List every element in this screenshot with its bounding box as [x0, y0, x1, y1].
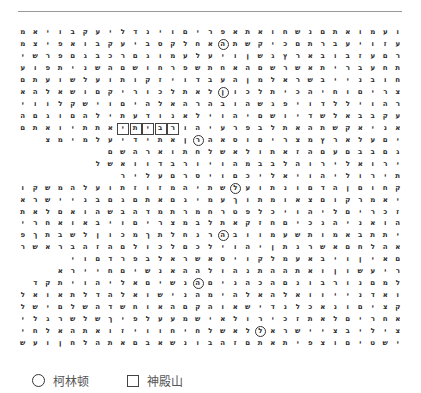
grid-letter: ו: [392, 290, 405, 301]
grid-letter: ר: [129, 87, 142, 98]
grid-letter: א: [54, 87, 67, 98]
grid-letter: ם: [254, 63, 267, 74]
grid-letter: פ: [129, 314, 142, 325]
grid-letter: ם: [342, 338, 355, 349]
grid-letter: נ: [179, 278, 192, 289]
grid-row: חובנייבשראלמןהעבדויזקותועלשועתם: [16, 75, 404, 87]
grid-letter: צ: [392, 326, 405, 337]
grid-letter: א: [254, 27, 267, 38]
grid-letter: ע: [379, 27, 392, 38]
grid-letter: ו: [179, 123, 192, 134]
grid-letter: ת: [104, 338, 117, 349]
grid-letter: ם: [379, 51, 392, 62]
grid-letter: ו: [229, 99, 242, 110]
grid-letter: א: [54, 326, 67, 337]
grid-letter: ב: [367, 147, 380, 158]
grid-letter: ה: [204, 302, 217, 313]
grid-letter: א: [317, 302, 330, 313]
grid-letter: ה: [104, 242, 117, 253]
grid-letter: ל: [229, 314, 242, 325]
grid-letter: ו: [342, 254, 355, 265]
grid-letter: א: [17, 87, 30, 98]
grid-letter: ר: [292, 51, 305, 62]
grid-letter: ה: [92, 278, 105, 289]
grid-letter: א: [392, 242, 405, 253]
grid-letter: ל: [192, 111, 205, 122]
grid-letter: ם: [167, 195, 180, 206]
grid-letter: י: [392, 195, 405, 206]
grid-letter: ה: [104, 63, 117, 74]
grid-letter: י: [92, 266, 105, 277]
grid-letter: מ: [304, 135, 317, 146]
grid-letter: ל: [179, 39, 192, 50]
grid-letter: ע: [92, 75, 105, 86]
grid-letter: י: [292, 111, 305, 122]
grid-letter: ת: [304, 39, 317, 50]
grid-letter: ר: [379, 87, 392, 98]
legend-box-label: 神殿山: [147, 372, 183, 389]
grid-letter: ר: [217, 207, 230, 218]
grid-letter: ך: [229, 195, 242, 206]
grid-letter: נ: [354, 278, 367, 289]
grid-letter: י: [379, 171, 392, 182]
grid-letter: א: [17, 195, 30, 206]
grid-letter: א: [29, 27, 42, 38]
grid-letter: ן: [92, 230, 105, 241]
grid-letter: ס: [217, 254, 230, 265]
grid-letter: ם: [92, 87, 105, 98]
grid-letter: ק: [167, 39, 180, 50]
grid-row: קחוםןהדםונתועלשתיהמזוזתועלהמשקו: [16, 182, 404, 194]
grid-letter: א: [104, 123, 117, 134]
grid-letter: ת: [254, 195, 267, 206]
grid-letter: א: [79, 218, 92, 229]
grid-letter: ל: [117, 27, 130, 38]
grid-letter: ת: [154, 230, 167, 241]
grid-letter: פ: [54, 51, 67, 62]
grid-letter: ג: [79, 51, 92, 62]
grid-letter: ם: [179, 242, 192, 253]
grid-letter: א: [129, 290, 142, 301]
grid-letter: ת: [117, 75, 130, 86]
grid-letter: א: [54, 218, 67, 229]
grid-letter: ר: [292, 75, 305, 86]
grid-letter: ת: [229, 39, 242, 50]
grid-letter: צ: [29, 39, 42, 50]
grid-letter: מ: [179, 218, 192, 229]
grid-letter: ש: [129, 63, 142, 74]
grid-letter: ל: [79, 290, 92, 301]
grid-letter: ם: [254, 111, 267, 122]
grid-letter: ל: [267, 254, 280, 265]
grid-letter: ע: [179, 51, 192, 62]
grid-letter: ר: [167, 123, 180, 134]
grid-letter: ו: [229, 51, 242, 62]
grid-letter: ח: [379, 314, 392, 325]
grid-letter: ש: [67, 230, 80, 241]
grid-letter: ם: [17, 123, 30, 134]
grid-letter: ז: [379, 39, 392, 50]
grid-letter: ל: [167, 230, 180, 241]
grid-letter: ח: [392, 75, 405, 86]
grid-letter: ו: [242, 314, 255, 325]
grid-letter: ל: [254, 326, 267, 337]
grid-row: ציליבציישראללאשלחיחוויזואתהאלחי: [16, 325, 404, 337]
grid-letter: י: [254, 302, 267, 313]
grid-letter: ו: [267, 27, 280, 38]
grid-letter: ש: [167, 278, 180, 289]
grid-letter: י: [292, 218, 305, 229]
grid-letter: ר: [179, 159, 192, 170]
grid-letter: ת: [92, 123, 105, 134]
grid-letter: י: [292, 99, 305, 110]
grid-letter: ם: [129, 218, 142, 229]
grid-letter: ם: [167, 171, 180, 182]
grid-letter: י: [367, 254, 380, 265]
grid-letter: ם: [179, 302, 192, 313]
grid-letter: ן: [354, 254, 367, 265]
grid-letter: י: [317, 207, 330, 218]
grid-letter: י: [204, 123, 217, 134]
grid-letter: ד: [367, 290, 380, 301]
grid-letter: ר: [179, 254, 192, 265]
grid-letter: ד: [142, 207, 155, 218]
grid-letter: י: [67, 63, 80, 74]
grid-letter: א: [67, 207, 80, 218]
grid-letter: י: [17, 99, 30, 110]
